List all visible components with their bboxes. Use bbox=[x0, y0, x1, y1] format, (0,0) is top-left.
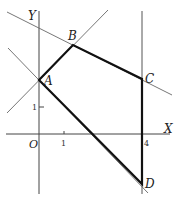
y-axis-label: Y bbox=[28, 9, 37, 23]
point-label-a: A bbox=[43, 74, 53, 88]
diagram-canvas: Y X O 1 4 1 A B C D bbox=[0, 0, 183, 205]
x-tick-label-1: 1 bbox=[61, 139, 66, 148]
origin-label: O bbox=[29, 138, 38, 151]
point-label-d: D bbox=[144, 177, 155, 191]
x-axis-label: X bbox=[163, 122, 173, 136]
coordinate-plane: Y X O 1 4 1 A B C D bbox=[0, 0, 183, 205]
point-label-c: C bbox=[145, 72, 154, 86]
point-label-b: B bbox=[67, 29, 77, 43]
x-tick-label-4: 4 bbox=[144, 139, 149, 148]
y-tick-label-1: 1 bbox=[32, 103, 37, 112]
polygon-abcd bbox=[39, 45, 142, 184]
